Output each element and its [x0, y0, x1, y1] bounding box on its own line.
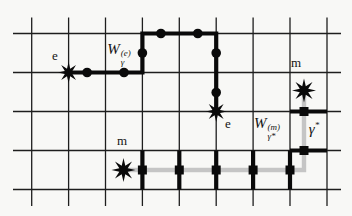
edge-operator-dot	[82, 68, 92, 78]
edge-operator-dot	[119, 68, 129, 78]
wilson-magnetic-subscript: γ*	[268, 133, 276, 142]
crossed-edge-square	[138, 166, 147, 175]
lattice-diagram	[0, 0, 352, 216]
crossed-edge-square	[286, 166, 295, 175]
anyon-star-e	[206, 101, 227, 122]
anyon-star-m	[292, 79, 316, 103]
label-wilson-electric: W(e)γ	[107, 42, 131, 66]
crossed-edge-square	[300, 146, 309, 155]
anyon-star-e	[58, 62, 79, 83]
crossed-edge-square	[249, 166, 258, 175]
anyon-star-m	[112, 158, 136, 182]
label-m-bottom: m	[117, 133, 127, 146]
wilson-electric-scripts: (e)γ	[121, 49, 131, 68]
edge-operator-dot	[193, 29, 203, 39]
wilson-electric-subscript: γ	[121, 58, 125, 67]
crossed-edge-square	[175, 166, 184, 175]
gamma-star-superscript: *	[315, 120, 320, 130]
label-gamma-star: γ*	[309, 121, 319, 137]
label-e-right: e	[225, 116, 231, 129]
wilson-magnetic-symbol: W	[254, 115, 267, 131]
edge-operator-dot	[211, 48, 221, 58]
crossed-edge-square	[300, 107, 309, 116]
edge-operator-dot	[138, 48, 148, 58]
edge-operator-dot	[156, 29, 166, 39]
edge-operator-dot	[211, 88, 221, 98]
crossed-edge-square	[212, 166, 221, 175]
label-e-left: e	[52, 49, 58, 62]
wilson-magnetic-scripts: (m)γ*	[268, 123, 281, 142]
label-wilson-magnetic: W(m)γ*	[254, 116, 280, 140]
wilson-electric-symbol: W	[107, 41, 120, 57]
label-m-top: m	[291, 56, 301, 69]
lattice-anyon-figure: e e m m W(e)γ W(m)γ* γ*	[0, 0, 352, 216]
